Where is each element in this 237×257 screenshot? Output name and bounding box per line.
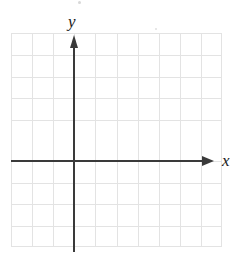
gridline-vertical <box>159 33 160 247</box>
gridline-horizontal <box>11 98 222 99</box>
gridline-horizontal <box>11 226 222 227</box>
gridline-vertical <box>95 33 96 247</box>
gridline-vertical <box>11 33 12 247</box>
x-axis-line <box>11 160 203 162</box>
gridline-horizontal <box>11 120 222 121</box>
x-axis-arrowhead-icon <box>202 156 214 166</box>
gridline-vertical <box>32 33 33 247</box>
gridline-vertical <box>53 33 54 247</box>
gridline-horizontal <box>11 55 222 56</box>
coordinate-plane-figure: x y <box>0 0 237 257</box>
gridline-horizontal <box>11 33 222 34</box>
graph-grid <box>11 33 222 247</box>
gridline-vertical <box>221 33 222 247</box>
y-axis-label: y <box>68 13 76 30</box>
scan-speck-upper-right-icon <box>155 28 157 30</box>
y-axis-line <box>73 46 75 252</box>
gridline-vertical <box>138 33 139 247</box>
scan-speck-top-icon <box>78 1 81 4</box>
y-axis-arrowhead-icon <box>70 35 78 48</box>
gridline-horizontal <box>11 183 222 184</box>
gridline-vertical <box>201 33 202 247</box>
gridline-horizontal <box>11 77 222 78</box>
x-axis-label: x <box>222 152 230 169</box>
gridline-vertical <box>117 33 118 247</box>
gridline-vertical <box>180 33 181 247</box>
gridline-horizontal <box>11 204 222 205</box>
gridline-horizontal <box>11 246 222 247</box>
